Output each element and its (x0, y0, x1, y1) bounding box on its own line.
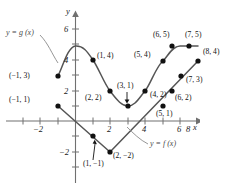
point-label-f-5-1: (5, 1) (156, 110, 172, 118)
point-label-f-1-neg1: (1, −1) (83, 160, 104, 168)
point-f-5-1 (160, 103, 165, 108)
x-axis-label: x (193, 123, 197, 132)
point-label-g-2-2: (2, 2) (85, 94, 101, 102)
point-g-4-2 (142, 88, 147, 93)
point-f-neg1-1 (55, 103, 60, 108)
point-label-g-3-1: (3, 1) (117, 82, 133, 90)
leader-line-g (40, 35, 58, 63)
y-tick-label-neg2: −2 (59, 148, 69, 157)
function-label-f: y = f (x) (150, 140, 176, 148)
point-f-6-2 (169, 88, 174, 93)
point-label-g-5-4: (5, 4) (134, 51, 150, 59)
point-label-g-neg1-3: (−1, 3) (9, 72, 30, 80)
point-f-8-4 (195, 58, 200, 63)
y-tick-label-2: 2 (64, 87, 68, 96)
x-tick-label-neg2: −2 (33, 125, 43, 134)
x-tick-label-6: 6 (177, 125, 181, 134)
y-axis (72, 11, 79, 184)
point-g-3-1 (125, 103, 130, 108)
y-tick-label-6: 6 (64, 25, 68, 34)
point-g-neg1-3 (55, 73, 60, 78)
point-g-2-2 (107, 88, 112, 93)
point-label-g-1-4: (1, 4) (97, 52, 113, 60)
point-label-g-7-5: (7, 5) (185, 31, 201, 39)
point-f-2-neg2 (107, 149, 112, 154)
x-tick-label-2: 2 (107, 125, 111, 134)
point-label-g-4-2: (4, 2) (150, 91, 166, 99)
point-g-5-4 (160, 58, 165, 63)
x-tick-label-4: 4 (142, 125, 146, 134)
arrow-label-3-1 (125, 92, 130, 104)
arrow-label-1-neg1 (93, 140, 97, 160)
point-g-7-5 (186, 43, 191, 48)
point-f-7-3 (178, 73, 183, 78)
point-label-f-8-4: (8, 4) (203, 48, 219, 56)
point-label-f-6-2: (6, 2) (175, 94, 191, 102)
point-label-f-7-3: (7, 3) (186, 76, 202, 84)
x-tick-label-8: 8 (186, 125, 190, 134)
point-g-6-5 (169, 43, 174, 48)
point-label-f-2-neg2: (2, −2) (113, 152, 134, 160)
point-g-1-4 (90, 57, 95, 62)
function-label-g: y = g (x) (6, 29, 34, 37)
graph-figure: x y −2 2 4 6 6 4 2 −2 8 y = g (x) y = f … (0, 0, 235, 189)
point-f-1-neg1 (90, 133, 95, 138)
coordinate-plane (0, 0, 235, 189)
point-label-g-6-5: (6, 5) (153, 31, 169, 39)
y-axis-label: y (66, 7, 70, 16)
point-label-f-neg1-1: (−1, 1) (9, 96, 30, 104)
y-tick-label-4: 4 (64, 56, 68, 65)
